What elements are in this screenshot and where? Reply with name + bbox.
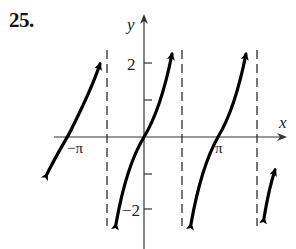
x-tick-label-neg-pi: −π: [67, 140, 83, 156]
tangent-branch-1: [47, 64, 100, 174]
y-axis-label: y: [125, 15, 135, 34]
y-tick-label-neg2: −2: [122, 201, 140, 220]
tangent-branch-3: [191, 54, 246, 224]
curves: [47, 54, 275, 224]
asymptotes: [107, 50, 257, 226]
axes: [54, 16, 285, 249]
x-axis-label: x: [278, 113, 287, 132]
tangent-graph: y x 2 −2 −π π: [0, 0, 296, 249]
y-tick-label-2: 2: [127, 55, 136, 74]
tangent-branch-4: [264, 170, 275, 218]
